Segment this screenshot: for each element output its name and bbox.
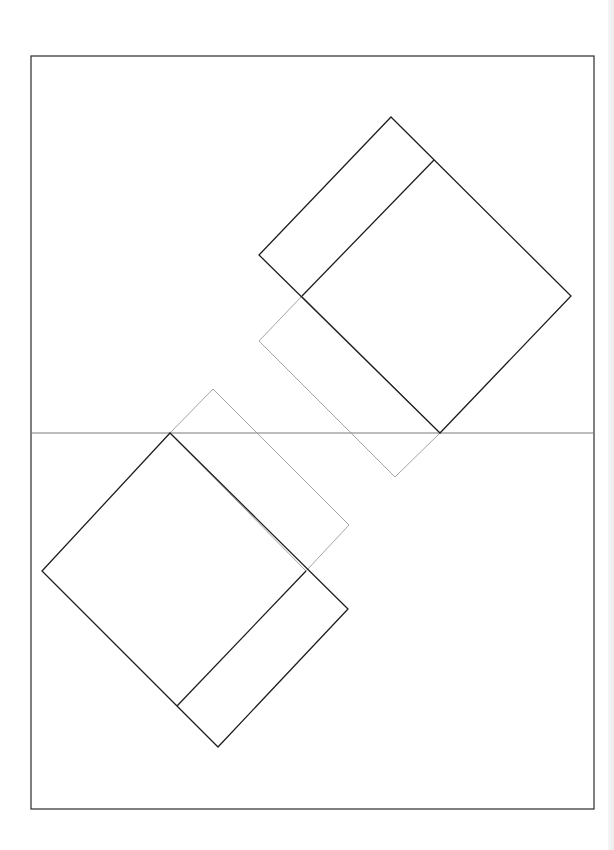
upper-ghost-rectangle [259,296,440,477]
upper-rotated-square [259,117,571,433]
lower-ghost-rectangle [170,389,349,571]
lower-rotated-square [42,433,348,747]
lower-square-divider-line [177,571,306,706]
folding-diagram [0,0,614,850]
upper-square-divider-line [302,160,434,296]
